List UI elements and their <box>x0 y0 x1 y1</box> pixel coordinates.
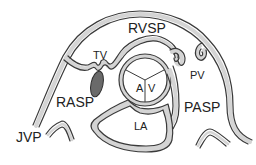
aortic-root <box>119 54 171 106</box>
label-pv: PV <box>190 69 205 81</box>
pasp-waveform <box>196 129 230 148</box>
jvp-waveform <box>46 121 74 141</box>
label-v: V <box>148 82 156 94</box>
label-pasp: PASP <box>184 99 220 115</box>
label-a: A <box>136 82 144 94</box>
cardiac-short-axis-diagram: RVSP TV A V PV RASP PASP LA JVP <box>0 0 256 165</box>
label-tv: TV <box>93 49 108 61</box>
label-rasp: RASP <box>56 94 94 110</box>
label-rvsp: RVSP <box>128 20 166 36</box>
label-jvp: JVP <box>16 129 42 145</box>
label-la: LA <box>134 120 148 132</box>
left-atrium <box>91 100 173 152</box>
